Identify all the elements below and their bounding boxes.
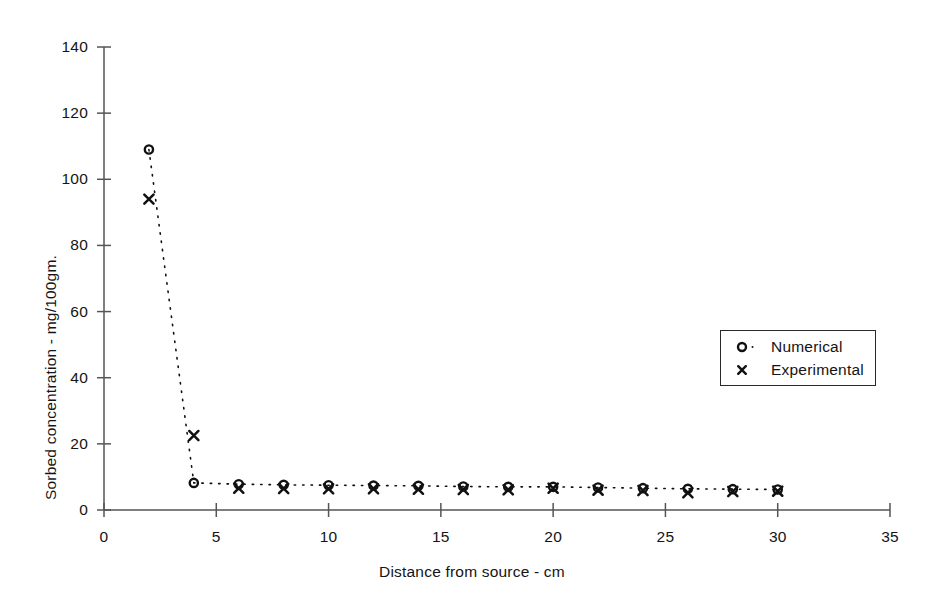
y-tick-label: 140 bbox=[26, 38, 88, 56]
series-connector-lines bbox=[149, 150, 778, 490]
y-tick-label: 80 bbox=[26, 236, 88, 254]
data-point-experimental bbox=[144, 195, 153, 204]
legend-label-experimental: Experimental bbox=[771, 361, 864, 379]
x-tick-label: 0 bbox=[100, 528, 109, 546]
y-tick-label: 0 bbox=[26, 501, 88, 519]
x-tick-label: 20 bbox=[544, 528, 562, 546]
cross-icon bbox=[725, 361, 771, 379]
x-axis-title: Distance from source - cm bbox=[379, 563, 565, 581]
y-tick-label: 120 bbox=[26, 104, 88, 122]
plot-area bbox=[0, 0, 930, 612]
legend-label-numerical: Numerical bbox=[771, 338, 843, 356]
x-tick-label: 30 bbox=[769, 528, 787, 546]
circle-open-icon bbox=[725, 338, 771, 356]
y-tick-label: 100 bbox=[26, 170, 88, 188]
axis-tickmarks bbox=[97, 47, 890, 517]
x-tick-label: 25 bbox=[657, 528, 675, 546]
chart-container: 02040608010012014005101520253035 Sorbed … bbox=[0, 0, 930, 612]
x-tick-label: 35 bbox=[881, 528, 899, 546]
legend: Numerical Experimental bbox=[720, 330, 876, 386]
series-line-numerical bbox=[149, 150, 778, 490]
legend-item-experimental: Experimental bbox=[725, 361, 864, 379]
y-axis-title: Sorbed concentration - mg/100gm. bbox=[42, 255, 60, 500]
x-tick-label: 10 bbox=[320, 528, 338, 546]
axis-lines bbox=[104, 47, 890, 510]
legend-item-numerical: Numerical bbox=[725, 338, 843, 356]
x-tick-label: 15 bbox=[432, 528, 450, 546]
series-data-markers bbox=[144, 145, 782, 497]
data-point-experimental bbox=[189, 431, 198, 440]
x-tick-label: 5 bbox=[212, 528, 221, 546]
